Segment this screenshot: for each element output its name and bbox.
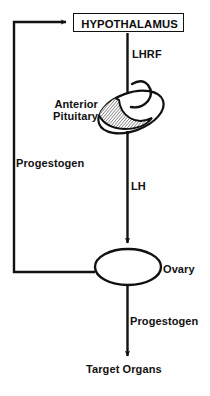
progestogen-feedback-label: Progestogen bbox=[16, 157, 84, 169]
hypothalamus-node: HYPOTHALAMUS bbox=[73, 13, 184, 32]
ovary-shape bbox=[95, 249, 161, 285]
ovary-label: Ovary bbox=[163, 263, 195, 275]
anterior-pituitary-shape bbox=[93, 81, 170, 141]
lh-label: LH bbox=[131, 180, 146, 192]
diagram-canvas bbox=[0, 0, 210, 396]
target-organs-label: Target Organs bbox=[86, 363, 162, 375]
hormone-axis-diagram: HYPOTHALAMUS LHRF Anterior Pituitary Pro… bbox=[0, 0, 210, 396]
progestogen-feedback-arrow-line bbox=[14, 22, 95, 272]
lhrf-label: LHRF bbox=[132, 48, 162, 60]
hypothalamus-label: HYPOTHALAMUS bbox=[74, 14, 185, 33]
progestogen-output-label: Progestogen bbox=[130, 315, 198, 327]
anterior-pituitary-label: Anterior Pituitary bbox=[35, 98, 98, 123]
